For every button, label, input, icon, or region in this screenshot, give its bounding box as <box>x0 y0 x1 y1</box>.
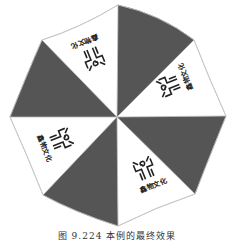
figure-caption: 图 9.224 本例的最终效果 <box>0 229 234 242</box>
umbrella-illustration: 鑫物文化 鑫物文化 鑫物文化 鑫物文化 <box>0 0 234 230</box>
